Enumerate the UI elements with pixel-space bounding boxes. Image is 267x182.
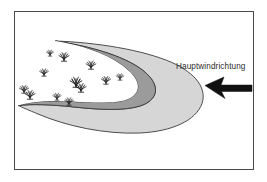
wind-direction-arrow	[205, 77, 252, 99]
dune-diagram-figure: Hauptwindrichtung	[0, 0, 267, 182]
wind-direction-label: Hauptwindrichtung	[176, 62, 246, 72]
dune-diagram-canvas	[0, 0, 267, 182]
